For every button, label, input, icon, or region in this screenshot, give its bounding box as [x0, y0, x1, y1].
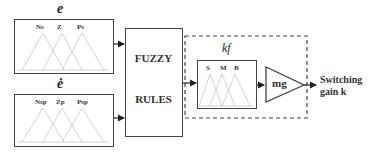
kf-title: kf [222, 41, 231, 56]
mf-label-s: S [206, 64, 210, 72]
mf-label-z: Z [57, 23, 62, 31]
mf-label-psp: Psp [77, 98, 88, 106]
e-input-title: e [57, 1, 63, 17]
mf-label-ns: Ns [36, 23, 44, 31]
output-label-line2: gain k [320, 86, 362, 98]
fuzzy-rules-line1: FUZZY [125, 52, 182, 64]
edot-input-title: ė [57, 76, 63, 92]
mf-label-nsp: Nsp [35, 98, 47, 106]
gain-label: mg [272, 77, 287, 89]
output-label-line1: Switching [320, 74, 362, 86]
e-input-box [14, 19, 114, 74]
fuzzy-rules-line2: RULES [125, 93, 182, 105]
mf-label-zp: Zp [56, 98, 65, 106]
fuzzy-rules-box [125, 28, 183, 137]
mf-label-b: B [234, 64, 239, 72]
output-label: Switching gain k [320, 74, 362, 98]
mf-label-ps: Ps [77, 23, 84, 31]
mf-label-m: M [220, 64, 227, 72]
